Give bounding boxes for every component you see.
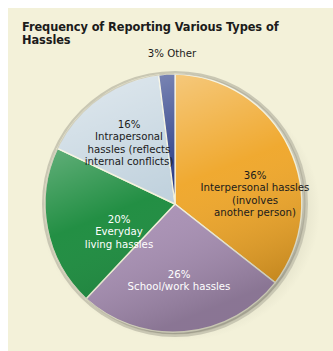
everyday-label-text: Everyday living hassles bbox=[85, 226, 153, 249]
school-work-percent: 26% bbox=[106, 269, 252, 281]
chart-title: Frequency of Reporting Various Types of … bbox=[22, 21, 322, 47]
intrapersonal-label-text: Intrapersonal hassles (reflects internal… bbox=[85, 131, 174, 166]
figure-container: Frequency of Reporting Various Types of … bbox=[0, 0, 333, 351]
everyday-percent: 20% bbox=[58, 214, 180, 226]
other-percent: 3% bbox=[148, 48, 164, 59]
chart-panel: Frequency of Reporting Various Types of … bbox=[8, 8, 333, 351]
slice-label-intrapersonal: 16%Intrapersonal hassles (reflects inter… bbox=[56, 107, 202, 168]
school-work-label-text: School/work hassles bbox=[128, 281, 231, 292]
interpersonal-percent: 36% bbox=[181, 170, 329, 182]
intrapersonal-percent: 16% bbox=[56, 119, 202, 131]
slice-label-everyday-living: 20%Everyday living hassles bbox=[58, 202, 180, 251]
interpersonal-label-text: Interpersonal hassles (involves another … bbox=[201, 182, 310, 217]
slice-label-interpersonal: 36%Interpersonal hassles (involves anoth… bbox=[181, 158, 329, 219]
slice-callout-other: 3% Other bbox=[116, 48, 228, 60]
slice-label-school-work: 26%School/work hassles bbox=[106, 257, 252, 294]
other-label-text: Other bbox=[167, 48, 196, 59]
